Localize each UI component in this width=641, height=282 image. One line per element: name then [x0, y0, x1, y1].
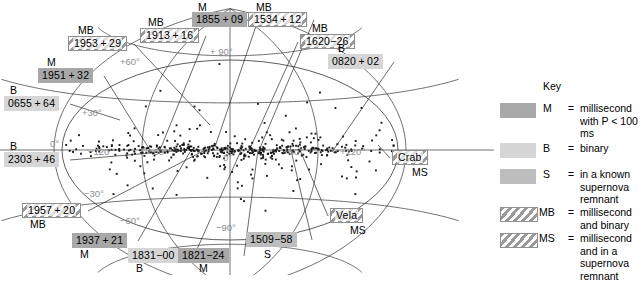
grid-label-lat-m60: −60°	[120, 215, 140, 227]
pulsar-point	[311, 150, 313, 152]
pulsar-point	[350, 166, 352, 168]
pulsar-point	[219, 63, 221, 65]
pulsar-label-162026: 1620−26	[300, 34, 355, 49]
pulsar-point	[82, 145, 84, 147]
pulsar-point	[370, 150, 372, 152]
pulsar-point	[251, 152, 253, 154]
pulsar-point	[80, 153, 82, 155]
pulsar-point	[241, 185, 243, 187]
pulsar-point	[224, 147, 226, 149]
pulsar-point	[320, 151, 322, 153]
pulsar-point	[194, 106, 196, 108]
pulsar-point	[308, 150, 310, 152]
pulsar-point	[241, 143, 243, 145]
key-swatch-s	[500, 169, 536, 184]
grid-label-lat-p90: + 90°	[210, 46, 233, 58]
pulsar-point	[189, 149, 191, 151]
pulsar-point	[179, 135, 181, 137]
key-equals-sign: =	[568, 232, 574, 244]
pulsar-point	[262, 154, 264, 156]
leader-line	[290, 146, 312, 240]
pulsar-point	[334, 151, 336, 153]
key-equals-sign: =	[568, 206, 574, 218]
pulsar-point	[393, 145, 395, 147]
pulsar-point	[189, 128, 191, 130]
pulsar-code-153412: MB	[256, 1, 272, 13]
pulsar-point	[146, 161, 148, 163]
pulsar-point	[183, 148, 185, 150]
pulsar-label-182124: 1821−24	[178, 248, 229, 263]
pulsar-point	[257, 103, 259, 105]
pulsar-point	[379, 148, 381, 150]
pulsar-point	[211, 149, 213, 151]
pulsar-point	[250, 174, 252, 176]
pulsar-point	[281, 167, 283, 169]
pulsar-point	[182, 153, 184, 155]
pulsar-point	[98, 141, 100, 143]
pulsar-point	[176, 146, 178, 148]
pulsar-point	[115, 149, 117, 151]
pulsar-point	[173, 130, 175, 132]
pulsar-point	[126, 145, 128, 147]
pulsar-point	[318, 148, 320, 150]
pulsar-point	[318, 139, 320, 141]
pulsar-point	[332, 147, 334, 149]
pulsar-label-191316: 1913 + 16	[140, 28, 199, 43]
pulsar-point	[176, 124, 178, 126]
pulsar-code-195132: M	[47, 56, 56, 68]
pulsar-point	[236, 142, 238, 144]
pulsar-point	[275, 149, 277, 151]
key-swatch-m	[500, 103, 536, 118]
pulsar-point	[346, 177, 348, 179]
pulsar-point	[134, 127, 136, 129]
pulsar-point	[258, 140, 260, 142]
key-description-mb: millisecond and binary	[580, 206, 641, 231]
leader-line	[104, 76, 150, 150]
pulsar-code-230346: B	[10, 140, 17, 152]
pulsar-point	[375, 134, 377, 136]
pulsar-point	[295, 160, 297, 162]
pulsar-point	[69, 150, 71, 152]
pulsar-point	[322, 150, 324, 152]
pulsar-point	[249, 152, 251, 154]
key-equals-sign: =	[568, 102, 574, 114]
pulsar-point	[187, 144, 189, 146]
pulsar-point	[278, 150, 280, 152]
pulsar-label-Vela: Vela	[330, 208, 363, 223]
pulsar-point	[170, 147, 172, 149]
pulsar-point	[304, 146, 306, 148]
pulsar-point	[181, 144, 183, 146]
pulsar-point	[224, 166, 226, 168]
pulsar-point	[320, 163, 322, 165]
pulsar-point	[133, 151, 135, 153]
leader-line	[88, 150, 205, 211]
pulsar-point	[190, 145, 192, 147]
pulsar-point	[276, 147, 278, 149]
pulsar-point	[209, 147, 211, 149]
pulsar-point	[243, 200, 245, 202]
key-code-mb: MB	[539, 206, 565, 218]
grid-label-lat-p30: +30°	[82, 107, 102, 119]
pulsar-point	[196, 149, 198, 151]
pulsar-code-182124: M	[199, 262, 208, 274]
pulsar-point	[313, 137, 315, 139]
pulsar-point	[248, 146, 250, 148]
key-code-ms: MS	[539, 232, 565, 244]
pulsar-point	[355, 140, 357, 142]
pulsar-point	[129, 135, 131, 137]
key-code-m: M	[543, 102, 565, 114]
pulsar-point	[223, 164, 225, 166]
pulsar-label-065564: 0655 + 64	[4, 96, 59, 111]
pulsar-point	[75, 148, 77, 150]
pulsar-point	[116, 173, 118, 175]
pulsar-point	[237, 181, 239, 183]
pulsar-point	[138, 145, 140, 147]
pulsar-point	[264, 163, 266, 165]
pulsar-label-195720: 1957 + 20	[22, 203, 81, 218]
pulsar-point	[271, 138, 273, 140]
pulsar-point	[261, 136, 263, 138]
pulsar-point	[330, 150, 332, 152]
pulsar-point	[204, 147, 206, 149]
pulsar-point	[275, 159, 277, 161]
